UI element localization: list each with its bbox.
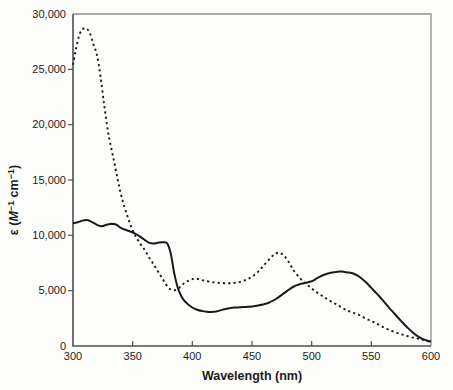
solid-spectrum-curve (73, 220, 431, 342)
y-axis-title-molar-symbol: M (7, 211, 21, 222)
x-axis-title: Wavelength (nm) (202, 369, 302, 383)
y-axis-title: ε (M−1 cm−1) (6, 165, 22, 235)
y-tick-label-5000: 5,000 (38, 284, 66, 296)
x-tick-labels: 300 350 400 450 500 550 600 (64, 350, 440, 362)
x-tick-label-400: 400 (183, 350, 201, 362)
x-tick-label-450: 450 (243, 350, 261, 362)
x-tick-label-550: 550 (362, 350, 380, 362)
x-tick-label-350: 350 (124, 350, 142, 362)
y-axis-title-epsilon: ε ( (7, 221, 21, 235)
plot-box-top-right (73, 14, 431, 346)
y-axis-title-superscript-2: −1 (6, 169, 16, 179)
x-tick-label-500: 500 (303, 350, 321, 362)
absorption-spectrum-figure: 300 350 400 450 500 550 600 0 5,000 10,0… (0, 0, 453, 390)
y-tick-label-20000: 20,000 (32, 118, 66, 130)
y-axis-title-close-paren: ) (7, 165, 21, 169)
tick-marks (68, 69, 371, 346)
plot-axes-left-bottom (73, 14, 431, 346)
plot-frame (73, 14, 431, 346)
x-tick-label-300: 300 (64, 350, 82, 362)
y-tick-label-25000: 25,000 (32, 63, 66, 75)
y-tick-labels: 0 5,000 10,000 15,000 20,000 25,000 30,0… (32, 8, 66, 352)
spectrum-curves (73, 28, 431, 342)
y-tick-label-30000: 30,000 (32, 8, 66, 20)
y-tick-label-0: 0 (60, 340, 66, 352)
absorption-spectrum-chart: 300 350 400 450 500 550 600 0 5,000 10,0… (0, 0, 453, 390)
y-tick-label-10000: 10,000 (32, 229, 66, 241)
y-axis-title-cm: cm (7, 179, 21, 201)
y-tick-label-15000: 15,000 (32, 174, 66, 186)
y-axis-title-superscript-1: −1 (6, 201, 16, 211)
x-tick-label-600: 600 (422, 350, 440, 362)
